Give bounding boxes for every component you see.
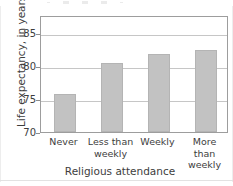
top-edge-artifact [47, 0, 123, 5]
x-tick-label-less-than-weekly: Less than weekly [87, 136, 134, 159]
bar-weekly [148, 54, 170, 132]
bar-more-than-weekly [195, 50, 217, 132]
bar-less-than-weekly [101, 63, 123, 132]
y-tick-label-70: 70 [23, 128, 36, 138]
y-tick-mark-70 [36, 133, 40, 134]
x-tick-label-never: Never [40, 136, 87, 148]
bar-never [54, 94, 76, 132]
x-axis: Never Less than weekly Weekly More than … [40, 136, 228, 166]
bar-chart-figure: 85 80 75 70 Life expectancy, in years Ne… [0, 0, 233, 186]
y-axis-title: Life expectancy, in years [15, 0, 27, 127]
bars-layer [41, 17, 227, 132]
x-tick-label-weekly: Weekly [134, 136, 181, 148]
plot-area [40, 16, 228, 133]
x-axis-title: Religious attendance [20, 165, 220, 177]
figure-right-border [232, 6, 233, 182]
